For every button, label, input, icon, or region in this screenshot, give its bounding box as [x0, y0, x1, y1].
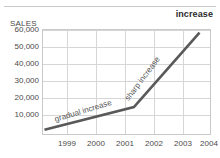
x-axis-ticks: 1999 2000 2001 2002 2003 2004 [0, 0, 220, 158]
x-tick-2004: 2004 [200, 140, 218, 148]
chart-container: increase SALES 60,000 50,000 40,000 30,0… [0, 0, 220, 158]
x-tick-2001: 2001 [116, 140, 134, 148]
x-tick-2003: 2003 [174, 140, 192, 148]
x-tick-1999: 1999 [58, 140, 76, 148]
x-tick-2002: 2002 [145, 140, 163, 148]
x-tick-2000: 2000 [87, 140, 105, 148]
